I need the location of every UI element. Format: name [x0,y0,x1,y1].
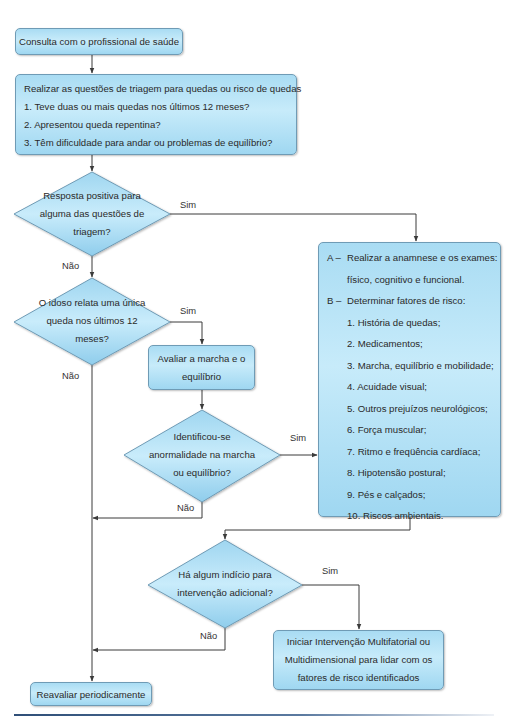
intervention-line: Iniciar Intervenção Multifatorial ou [287,633,430,651]
decision-3-no-label: Não [177,502,194,513]
decision-1-line: triagem? [40,223,145,241]
screening-title: Realizar as questões de triagem para que… [24,80,296,98]
decision-4-text: Há algum indício para intervenção adicio… [177,566,272,602]
risk-factor-item: 4. Acuidade visual; [347,376,500,398]
assessment-b-marker: B – [327,290,347,312]
assessment-a-line: físico, cognitivo e funcional. [327,269,500,291]
decision-2-line: queda nos últimos 12 [39,312,146,330]
decision-4-no-label: Não [200,630,217,641]
gait-box-line: equilíbrio [182,368,221,386]
reassess-box: Reavaliar periodicamente [30,682,152,706]
decision-3-yes-label: Sim [290,432,306,443]
decision-1-line: Resposta positiva para [40,187,145,205]
gait-assessment-box: Avaliar a marcha e o equilíbrio [148,345,255,390]
screening-box: Realizar as questões de triagem para que… [15,74,297,155]
intervention-line: fatores de risco identificados [298,669,420,687]
decision-3-line: anormalidade na marcha [149,446,255,464]
assessment-b-row: B –Determinar fatores de risco: [327,290,500,312]
decision-2-text: O idoso relata uma única queda nos últim… [39,294,146,348]
risk-factor-item: 3. Marcha, equilíbrio e mobilidade; [347,355,500,377]
gait-box-line: Avaliar a marcha e o [158,350,246,368]
decision-1-text: Resposta positiva para alguma das questõ… [40,187,145,241]
decision-2-line: O idoso relata uma única [39,294,146,312]
risk-factor-item: 5. Outros prejuízos neurológicos; [347,398,500,420]
intervention-line: Multidimensional para lidar com os [285,651,433,669]
screening-question-1: 1. Teve duas ou mais quedas nos últimos … [24,98,296,116]
screening-question-3: 3. Têm dificuldade para andar ou problem… [24,134,296,152]
decision-3-line: Identificou-se [149,428,255,446]
decision-4-yes-label: Sim [322,565,338,576]
start-box: Consulta com o profissional de saúde [15,28,183,55]
assessment-a-row: A –Realizar a anamnese e os exames: [327,247,500,269]
decision-2-line: meses? [39,330,146,348]
decision-4-line: Há algum indício para [177,566,272,584]
screening-question-2: 2. Apresentou queda repentina? [24,116,296,134]
intervention-box: Iniciar Intervenção Multifatorial ou Mul… [273,630,444,690]
decision-3-line: ou equilíbrio? [149,464,255,482]
risk-factor-item: 7. Ritmo e freqüência cardíaca; [347,441,500,463]
assessment-b-title: Determinar fatores de risco: [347,295,465,306]
decision-2-yes-label: Sim [180,305,196,316]
risk-factor-item: 10. Riscos ambientais. [347,505,500,527]
reassess-label: Reavaliar periodicamente [37,689,146,700]
start-label: Consulta com o profissional de saúde [19,36,179,47]
assessment-a-line: Realizar a anamnese e os exames: [347,252,497,263]
risk-factor-item: 8. Hipotensão postural; [347,462,500,484]
decision-1-no-label: Não [62,260,79,271]
decision-1-yes-label: Sim [180,199,196,210]
decision-4-line: intervenção adicional? [177,584,272,602]
risk-factor-item: 1. História de quedas; [347,312,500,334]
decision-2-no-label: Não [62,370,79,381]
decision-3-text: Identificou-se anormalidade na marcha ou… [149,428,255,482]
risk-factor-item: 2. Medicamentos; [347,333,500,355]
decision-1-line: alguma das questões de [40,205,145,223]
risk-factor-item: 6. Força muscular; [347,419,500,441]
assessment-a-marker: A – [327,247,347,269]
assessment-box: A –Realizar a anamnese e os exames: físi… [318,242,501,517]
risk-factor-item: 9. Pés e calçados; [347,484,500,506]
risk-factor-list: 1. História de quedas; 2. Medicamentos; … [327,312,500,527]
bottom-divider [14,714,494,716]
